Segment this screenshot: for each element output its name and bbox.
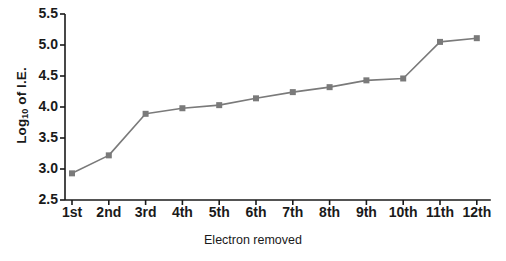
data-point-marker bbox=[290, 89, 296, 95]
y-axis-tick-label: 3.5 bbox=[22, 129, 58, 145]
data-point-marker bbox=[179, 105, 185, 111]
data-point-marker bbox=[216, 102, 222, 108]
data-point-marker bbox=[69, 170, 75, 176]
x-axis-tick-label: 12th bbox=[455, 204, 499, 220]
y-axis-tick-label: 5.0 bbox=[22, 36, 58, 52]
data-markers bbox=[69, 35, 480, 176]
axes bbox=[60, 14, 491, 205]
series-polyline bbox=[72, 38, 477, 173]
chart-figure: Log10 of I.E. 2.53.03.54.04.55.05.5 1st2… bbox=[0, 0, 506, 261]
data-point-marker bbox=[363, 77, 369, 83]
data-point-marker bbox=[474, 35, 480, 41]
data-point-marker bbox=[400, 75, 406, 81]
data-point-marker bbox=[106, 152, 112, 158]
data-point-marker bbox=[143, 111, 149, 117]
y-axis-tick-label: 5.5 bbox=[22, 5, 58, 21]
data-series-line bbox=[72, 38, 477, 173]
y-axis-tick-label: 3.0 bbox=[22, 160, 58, 176]
x-axis-title: Electron removed bbox=[0, 233, 506, 247]
data-point-marker bbox=[253, 95, 259, 101]
data-point-marker bbox=[327, 84, 333, 90]
y-axis-tick-label: 4.5 bbox=[22, 67, 58, 83]
data-point-marker bbox=[437, 39, 443, 45]
y-axis-tick-label: 4.0 bbox=[22, 98, 58, 114]
plot-area bbox=[0, 0, 506, 261]
